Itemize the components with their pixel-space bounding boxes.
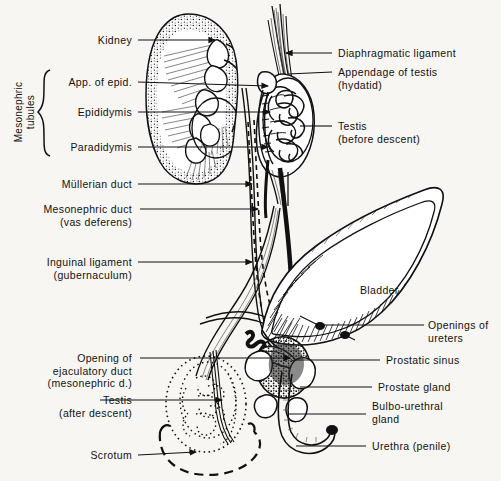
openings-of-ureters-line-1: ureters <box>428 332 488 345</box>
appendage-of-testis-line-0: Appendage of testis <box>338 66 437 79</box>
paradidymis-label: Paradidymis <box>70 141 132 154</box>
mullerian-duct-label: Müllerian duct <box>62 178 132 191</box>
testis-before-descent-label: Testis(before descent) <box>338 120 420 145</box>
scrotum-label: Scrotum <box>90 449 132 462</box>
app-of-epid-label: App. of epid. <box>68 76 132 89</box>
bladder <box>262 188 443 360</box>
epididymis-label: Epididymis <box>78 106 132 119</box>
mesonephric-tubules-line-0: Mesonephric <box>13 77 25 147</box>
openings-of-ureters-label: Openings ofureters <box>428 319 488 344</box>
epididymis-line-0: Epididymis <box>78 106 132 119</box>
bulbo-urethral-gland-line-1: gland <box>372 413 443 426</box>
scrotum-line-0: Scrotum <box>90 449 132 462</box>
kidney-label: Kidney <box>98 34 132 47</box>
inguinal-ligament-line-1: (gubernaculum) <box>47 269 132 282</box>
testis-after-descent-line-0: Testis <box>59 394 132 407</box>
appendage-of-testis-line-1: (hydatid) <box>338 79 437 92</box>
diaphragmatic-ligament <box>268 4 292 80</box>
testis-after-descent <box>166 350 246 452</box>
kidney-line-0: Kidney <box>98 34 132 47</box>
bladder-line-0: Bladder <box>360 284 399 297</box>
appendage-of-testis-leader <box>288 72 332 74</box>
paradidymis-line-0: Paradidymis <box>70 141 132 154</box>
inguinal-ligament-line-0: Inguinal ligament <box>47 256 132 269</box>
bulbo-urethral-gland-line-0: Bulbo-urethral <box>372 400 443 413</box>
mesonephric-tubules-line-1: tubules <box>25 77 37 147</box>
mesonephric-duct-line-0: Mesonephric duct <box>44 203 132 216</box>
urethra-penile-label: Urethra (penile) <box>372 440 451 453</box>
mesonephric-tubules-brace <box>38 70 50 156</box>
prostate-gland-line-0: Prostate gland <box>378 381 451 394</box>
scrotum-leader <box>138 452 196 455</box>
urethral-orifice <box>326 425 338 435</box>
app-of-epid-line-0: App. of epid. <box>68 76 132 89</box>
testis-before-descent-line-0: Testis <box>338 120 420 133</box>
openings-of-ureters-line-0: Openings of <box>428 319 488 332</box>
figure-canvas: Mesonephrictubules KidneyApp. of epid.Ep… <box>0 0 501 481</box>
diaphragmatic-ligament-line-0: Diaphragmatic ligament <box>338 47 456 60</box>
bulbo-urethral-gland <box>254 395 307 422</box>
mesonephric-duct-label: Mesonephric duct(vas deferens) <box>44 203 132 228</box>
appendage-of-testis-label: Appendage of testis(hydatid) <box>338 66 437 91</box>
testis-after-descent-label: Testis(after descent) <box>59 394 132 419</box>
mesonephric-tubules-label: Mesonephrictubules <box>13 77 37 147</box>
diaphragmatic-ligament-label: Diaphragmatic ligament <box>338 47 456 60</box>
scrotum <box>160 423 260 474</box>
prostate-lobe-left <box>245 351 272 381</box>
testis-after-descent-line-1: (after descent) <box>59 407 132 420</box>
mesonephric-duct-line-1: (vas deferens) <box>44 216 132 229</box>
prostatic-sinus-line-0: Prostatic sinus <box>386 354 460 367</box>
prostate-gland-label: Prostate gland <box>378 381 451 394</box>
bladder-label: Bladder <box>360 284 399 297</box>
bulbo-urethral-gland-label: Bulbo-urethralgland <box>372 400 443 425</box>
opening-ejaculatory-duct-line-2: (mesonephric d.) <box>48 377 132 390</box>
opening-ejaculatory-duct-label: Opening ofejaculatory duct(mesonephric d… <box>48 352 132 390</box>
urethra-penile-line-0: Urethra (penile) <box>372 440 451 453</box>
prostatic-sinus-label: Prostatic sinus <box>386 354 460 367</box>
mullerian-duct-line-0: Müllerian duct <box>62 178 132 191</box>
opening-ejaculatory-duct-line-1: ejaculatory duct <box>48 365 132 378</box>
appendage-of-testis <box>258 72 277 94</box>
testis-before-descent-line-1: (before descent) <box>338 133 420 146</box>
inguinal-ligament-label: Inguinal ligament(gubernaculum) <box>47 256 132 281</box>
opening-ejaculatory-duct-line-0: Opening of <box>48 352 132 365</box>
